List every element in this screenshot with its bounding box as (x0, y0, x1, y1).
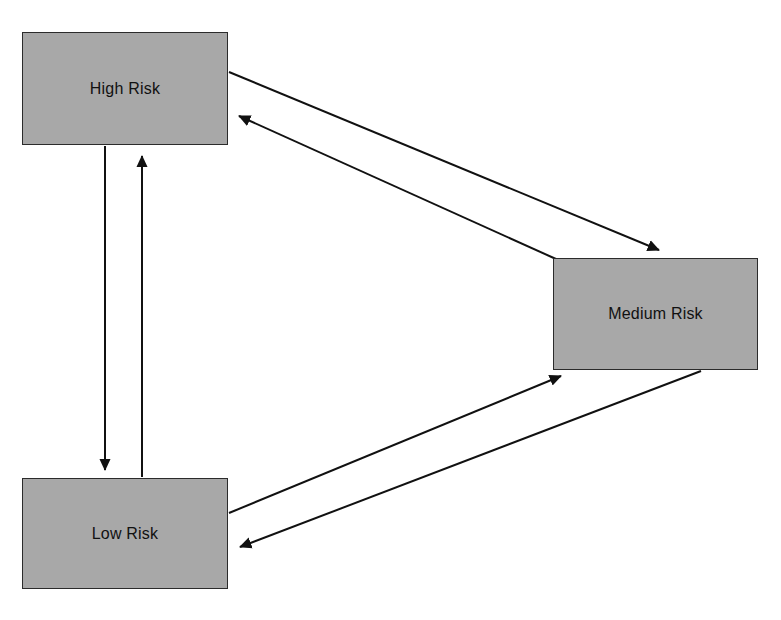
edge-high-to-medium (229, 72, 659, 250)
node-medium-risk-label: Medium Risk (608, 305, 703, 323)
node-medium-risk: Medium Risk (553, 258, 758, 370)
node-low-risk-label: Low Risk (92, 525, 159, 543)
node-high-risk: High Risk (22, 32, 228, 145)
risk-transition-diagram: High Risk Medium Risk Low Risk (0, 0, 781, 620)
node-high-risk-label: High Risk (90, 80, 160, 98)
node-low-risk: Low Risk (22, 478, 228, 589)
edge-medium-to-low (240, 371, 701, 547)
